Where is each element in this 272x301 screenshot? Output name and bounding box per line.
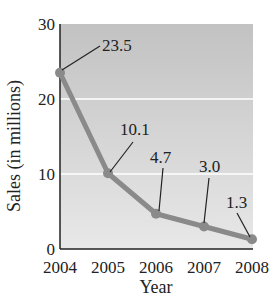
data-label: 3.0 (199, 157, 220, 176)
plot-area: 010203020042005200620072008YearSales (in… (4, 15, 269, 297)
y-tick-label: 30 (38, 15, 55, 34)
y-tick-label: 20 (38, 90, 55, 109)
y-axis-title: Sales (in millions) (4, 80, 25, 212)
x-tick-label: 2008 (235, 258, 269, 277)
y-tick-label: 10 (38, 165, 55, 184)
y-tick-label: 0 (47, 240, 56, 259)
sales-line-chart: 010203020042005200620072008YearSales (in… (0, 0, 272, 301)
data-label: 1.3 (226, 193, 247, 212)
x-tick-label: 2004 (43, 258, 78, 277)
data-point (247, 234, 257, 244)
x-tick-label: 2005 (91, 258, 125, 277)
data-label: 10.1 (120, 120, 150, 139)
data-label: 23.5 (102, 36, 132, 55)
x-axis-title: Year (139, 277, 172, 297)
x-tick-label: 2007 (187, 258, 222, 277)
data-label: 4.7 (150, 148, 172, 167)
x-tick-label: 2006 (139, 258, 173, 277)
